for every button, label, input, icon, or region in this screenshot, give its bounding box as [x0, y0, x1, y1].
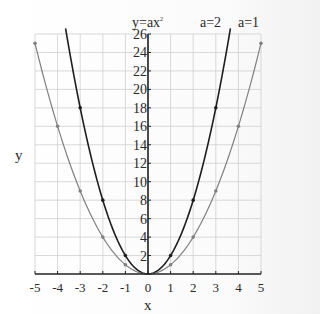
x-tick-label: -3	[75, 280, 86, 295]
y-tick-label: 12	[133, 156, 147, 171]
x-tick-label: 3	[213, 280, 220, 295]
y-tick-label: 16	[133, 119, 147, 134]
x-tick-label: 1	[167, 280, 174, 295]
y-tick-label: 10	[133, 175, 147, 190]
y-tick-labels: 2468101214161820222426	[133, 27, 147, 264]
data-point	[124, 263, 128, 267]
axes	[35, 34, 261, 274]
y-tick-label: 6	[140, 212, 147, 227]
y-tick-label: 24	[133, 45, 147, 60]
data-point	[214, 106, 218, 110]
data-point	[78, 106, 82, 110]
x-tick-label: 2	[190, 280, 197, 295]
x-tick-label: -2	[97, 280, 108, 295]
data-point	[124, 254, 128, 258]
data-point	[259, 41, 263, 45]
data-point	[101, 235, 105, 239]
data-point	[78, 189, 82, 193]
y-tick-label: 2	[140, 249, 147, 264]
x-tick-label: -1	[120, 280, 131, 295]
data-point	[191, 235, 195, 239]
x-tick-label: 0	[145, 280, 152, 295]
legend-a2: a=2	[200, 15, 221, 30]
x-tick-label: 5	[258, 280, 265, 295]
y-axis-label: y	[15, 147, 23, 163]
data-point	[214, 189, 218, 193]
data-point	[237, 125, 241, 129]
data-point	[169, 254, 173, 258]
y-tick-label: 14	[133, 138, 147, 153]
data-point	[56, 125, 60, 129]
y-tick-label: 20	[133, 82, 147, 97]
legend-a1: a=1	[238, 15, 259, 30]
y-tick-label: 4	[140, 230, 147, 245]
y-tick-label: 18	[133, 101, 147, 116]
title-superscript: 2	[160, 16, 163, 22]
x-tick-label: -5	[30, 280, 41, 295]
x-tick-label: -4	[52, 280, 63, 295]
data-point	[33, 41, 37, 45]
data-point	[191, 198, 195, 202]
y-tick-label: 22	[133, 64, 147, 79]
y-tick-label: 8	[140, 193, 147, 208]
data-point	[169, 263, 173, 267]
data-point	[101, 198, 105, 202]
x-tick-label: 4	[235, 280, 242, 295]
x-tick-labels: -5-4-3-2-1012345	[30, 280, 265, 295]
chart-title: y=ax2	[132, 15, 163, 30]
parabola-chart: -5-4-3-2-1012345 2468101214161820222426 …	[0, 0, 280, 314]
x-axis-label: x	[144, 297, 152, 313]
